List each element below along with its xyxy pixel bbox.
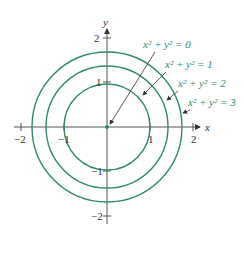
y-tick-1: 1 — [96, 76, 102, 88]
arrow-eq-1 — [143, 72, 166, 95]
label-eq-1: x² + y² = 1 — [164, 58, 213, 70]
label-eq-2: x² + y² = 2 — [177, 77, 226, 89]
arrow-eq-3 — [183, 110, 190, 113]
y-axis-label: y — [102, 16, 108, 28]
x-tick-2: 2 — [191, 133, 197, 145]
y-tick-neg2: −2 — [91, 210, 103, 222]
y-tick-2: 2 — [94, 32, 100, 44]
y-tick-neg1: −1 — [91, 165, 103, 177]
x-tick-neg1: −1 — [58, 133, 70, 145]
x-tick-1: 1 — [148, 133, 154, 145]
label-eq-0: x² + y² = 0 — [142, 38, 191, 50]
origin-point — [105, 125, 109, 129]
x-tick-neg2: −2 — [14, 133, 26, 145]
label-eq-3: x² + y² = 3 — [187, 96, 236, 108]
level-curves-diagram: −2 −1 1 2 2 1 −1 −2 x y x² + y² = 0 x² +… — [0, 0, 244, 255]
x-axis-label: x — [204, 121, 210, 133]
